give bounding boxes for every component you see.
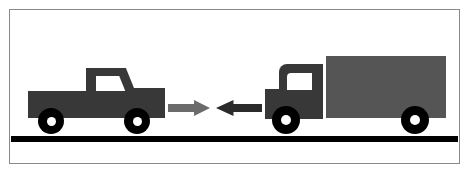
box-truck-window — [287, 73, 312, 90]
box-truck — [0, 0, 470, 175]
box-truck-rear-wheel — [401, 106, 429, 134]
road-line — [11, 136, 458, 142]
box-truck-cargo-box — [326, 56, 446, 118]
box-truck-rear-hub — [410, 115, 420, 125]
illustration-canvas — [0, 0, 470, 175]
box-truck-front-hub — [281, 115, 291, 125]
box-truck-front-wheel — [272, 106, 300, 134]
